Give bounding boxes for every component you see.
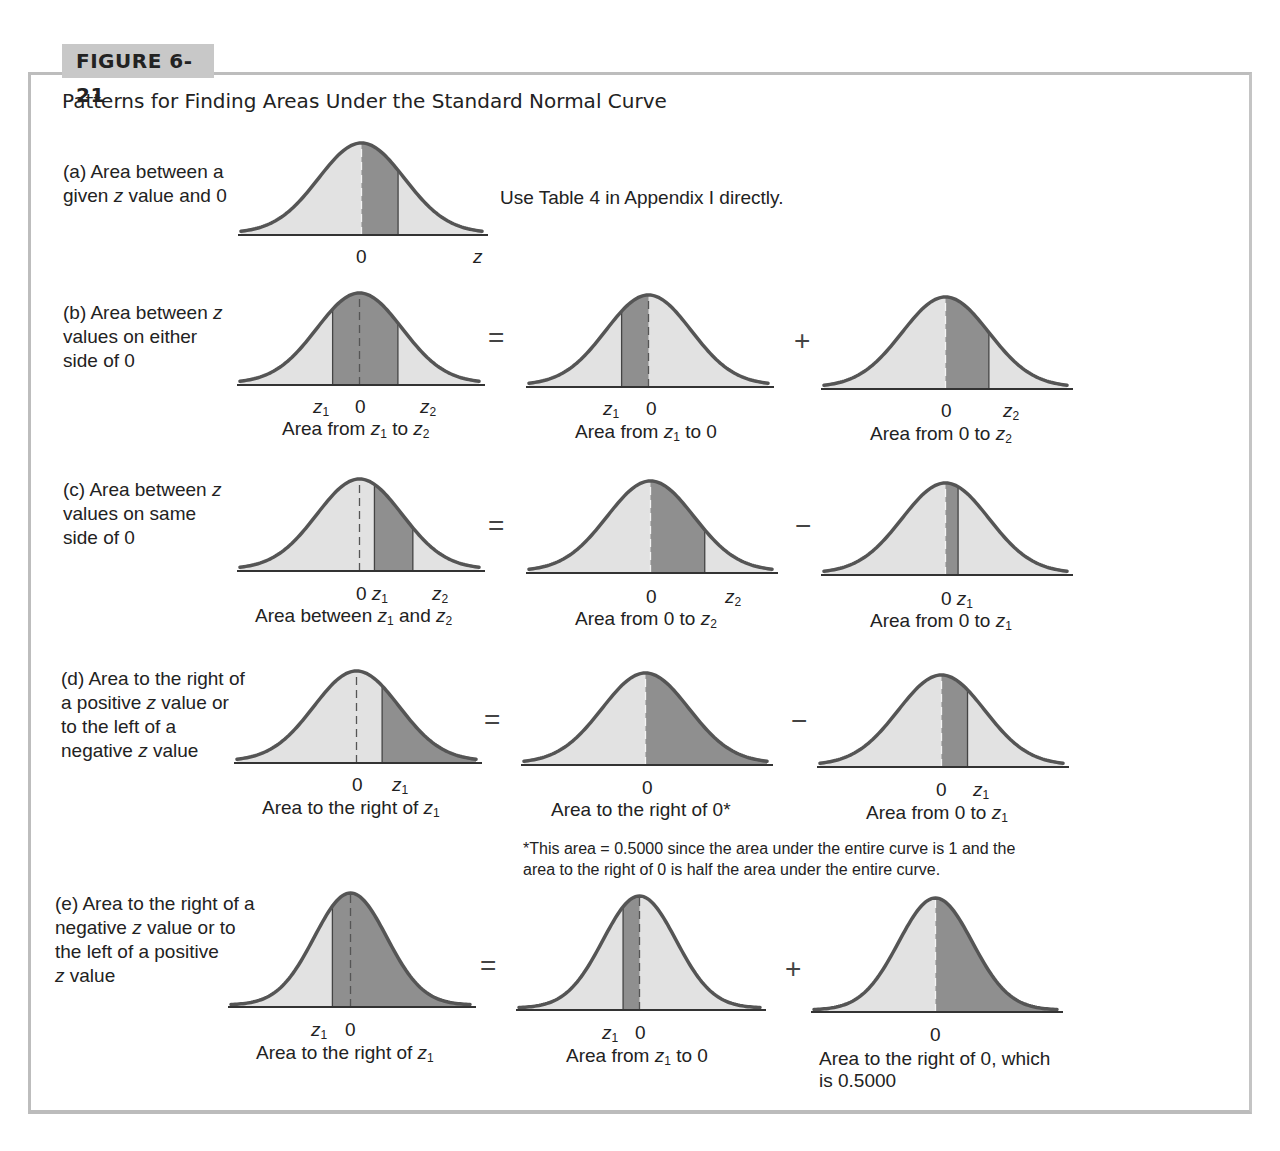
normal-curve-d2 bbox=[521, 670, 773, 770]
normal-curve-b2 bbox=[526, 292, 774, 392]
tick-0: 0 bbox=[352, 774, 363, 796]
tick-z1: z1 bbox=[602, 1022, 618, 1045]
tick-z1: z1 bbox=[957, 588, 973, 609]
tick-z1: z1 bbox=[973, 779, 989, 802]
tick-0: 0 bbox=[356, 246, 367, 268]
caption-e2: Area from z1 to 0 bbox=[566, 1045, 708, 1068]
caption-b3: Area from 0 to z2 bbox=[870, 423, 1012, 446]
tick-0: 0 bbox=[345, 1019, 356, 1041]
caption-c1: Area between z1 and z2 bbox=[255, 605, 452, 628]
equals-operator: = bbox=[484, 704, 500, 736]
caption-d3: Area from 0 to z1 bbox=[866, 802, 1008, 825]
minus-operator: − bbox=[795, 510, 811, 542]
normal-curve-e3 bbox=[811, 895, 1063, 1017]
tick-z2: z2 bbox=[725, 586, 741, 609]
caption-c2: Area from 0 to z2 bbox=[575, 608, 717, 631]
tick-z1: z1 bbox=[311, 1019, 327, 1042]
normal-curve-d1 bbox=[234, 668, 482, 768]
row-e-description: (e) Area to the right of a negative z va… bbox=[55, 892, 255, 988]
tick-0: 0 bbox=[355, 396, 366, 418]
tick-0: 0 bbox=[930, 1024, 941, 1046]
equals-operator: = bbox=[488, 322, 504, 354]
equals-operator: = bbox=[488, 510, 504, 542]
caption-e3: Area to the right of 0, which is 0.5000 bbox=[819, 1048, 1050, 1092]
normal-curve-c2 bbox=[526, 478, 778, 578]
row-b-description: (b) Area between z values on either side… bbox=[63, 301, 222, 373]
normal-curve-c3 bbox=[821, 480, 1073, 580]
tick-z1: z1 bbox=[603, 398, 619, 421]
equals-operator: = bbox=[480, 950, 496, 982]
normal-curve-c1 bbox=[237, 476, 485, 576]
figure-label: FIGURE 6-21 bbox=[62, 44, 214, 78]
tick-z1: z1 bbox=[313, 396, 329, 419]
tick-z2: z2 bbox=[1003, 400, 1019, 423]
caption-e1: Area to the right of z1 bbox=[256, 1042, 434, 1065]
caption-b1: Area from z1 to z2 bbox=[282, 418, 429, 441]
row-c-description: (c) Area between z values on same side o… bbox=[63, 478, 221, 550]
caption-d2: Area to the right of 0* bbox=[551, 799, 731, 821]
tick-z1: z1 bbox=[392, 774, 408, 797]
figure-title: Patterns for Finding Areas Under the Sta… bbox=[62, 89, 667, 113]
tick-0: 0 bbox=[936, 779, 947, 801]
tick-0: 0 bbox=[356, 583, 367, 604]
caption-c3: Area from 0 to z1 bbox=[870, 610, 1012, 633]
plus-operator: + bbox=[785, 953, 801, 985]
caption-d1: Area to the right of z1 bbox=[262, 797, 440, 820]
tick-z1: z1 bbox=[372, 583, 388, 604]
row-d-description: (d) Area to the right of a positive z va… bbox=[61, 667, 245, 763]
tick-0: 0 bbox=[646, 398, 657, 420]
tick-0: 0 bbox=[646, 586, 657, 608]
normal-curve-d3 bbox=[817, 672, 1069, 772]
normal-curve-b1 bbox=[237, 290, 485, 390]
normal-curve-b3 bbox=[821, 294, 1073, 394]
row-a-description: (a) Area between a given z value and 0 bbox=[63, 160, 227, 208]
tick-z: z bbox=[473, 246, 483, 268]
plus-operator: + bbox=[794, 325, 810, 357]
row-a-instruction: Use Table 4 in Appendix I directly. bbox=[500, 186, 783, 210]
normal-curve-e1 bbox=[228, 890, 476, 1012]
minus-operator: − bbox=[791, 705, 807, 737]
tick-0: 0 bbox=[635, 1022, 646, 1044]
caption-b2: Area from z1 to 0 bbox=[575, 421, 717, 444]
tick-0: 0 bbox=[941, 400, 952, 422]
tick-0: 0 bbox=[941, 588, 952, 609]
tick-z2: z2 bbox=[432, 583, 448, 606]
footnote: *This area = 0.5000 since the area under… bbox=[523, 838, 1015, 880]
tick-0: 0 bbox=[642, 777, 653, 799]
tick-z2: z2 bbox=[420, 396, 436, 419]
normal-curve-e2 bbox=[516, 893, 766, 1015]
normal-curve-a bbox=[238, 140, 488, 240]
